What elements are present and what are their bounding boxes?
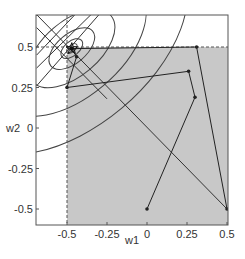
- x-tick-label: 0.5: [219, 228, 234, 240]
- x-axis-label: w1: [124, 234, 139, 246]
- path-point: [75, 55, 79, 59]
- shaded-region: [67, 47, 228, 225]
- x-tick-label: -0.25: [94, 228, 119, 240]
- feasible-region: [67, 47, 228, 225]
- y-axis-label: w2: [5, 122, 20, 134]
- y-tick-label: 0.25: [12, 82, 33, 94]
- x-tick-label: 0: [144, 228, 150, 240]
- optimum-dot: [70, 46, 74, 50]
- path-point: [195, 45, 199, 49]
- y-tick-label: 0.5: [18, 41, 33, 53]
- chart-figure: -0.5-0.2500.250.5 -0.5-0.2500.250.5 w1 w…: [0, 0, 245, 259]
- contour-plot: -0.5-0.2500.250.5 -0.5-0.2500.250.5 w1 w…: [0, 0, 245, 259]
- y-tick-label: -0.25: [8, 163, 33, 175]
- path-point: [65, 86, 69, 90]
- x-tick-label: 0.25: [176, 228, 197, 240]
- path-point: [187, 70, 191, 74]
- y-tick-label: 0: [27, 122, 33, 134]
- x-tick-label: -0.5: [58, 228, 77, 240]
- path-point: [145, 207, 149, 211]
- y-tick-label: -0.5: [14, 203, 33, 215]
- path-point: [193, 95, 197, 99]
